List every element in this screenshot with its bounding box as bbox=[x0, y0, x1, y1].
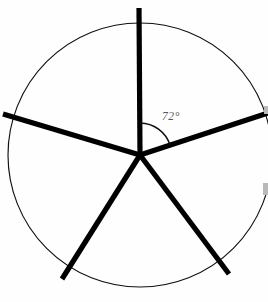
right-edge-smudge-upper bbox=[264, 106, 268, 114]
circle-sector-diagram: 72° bbox=[0, 0, 268, 302]
geometry-figure-canvas: 72° bbox=[0, 0, 268, 302]
angle-label: 72° bbox=[162, 110, 180, 122]
spoke-up bbox=[139, 8, 140, 155]
right-edge-smudge-lower bbox=[263, 183, 268, 195]
